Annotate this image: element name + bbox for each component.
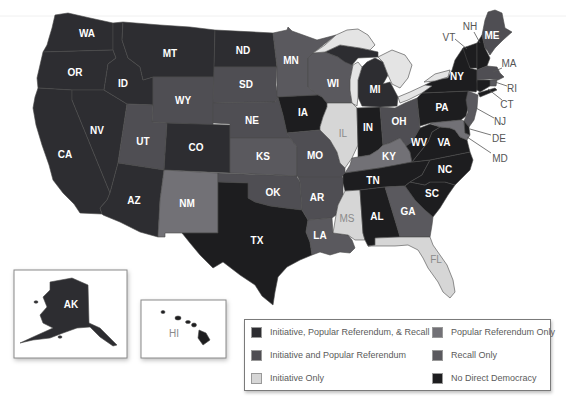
svg-text:UT: UT xyxy=(136,136,149,147)
svg-text:TN: TN xyxy=(366,175,379,186)
svg-text:AR: AR xyxy=(310,192,325,203)
svg-text:TX: TX xyxy=(251,235,264,246)
svg-text:NJ: NJ xyxy=(494,116,506,127)
legend-swatch xyxy=(251,373,262,384)
svg-text:NM: NM xyxy=(179,198,195,209)
legend-label: No Direct Democracy xyxy=(451,373,537,383)
svg-text:OR: OR xyxy=(68,67,84,78)
state-ri xyxy=(490,80,497,86)
legend-swatch xyxy=(432,350,443,361)
svg-text:SD: SD xyxy=(239,79,253,90)
state-me: ME xyxy=(482,10,512,55)
svg-text:MA: MA xyxy=(502,58,517,69)
svg-text:MN: MN xyxy=(283,55,299,66)
svg-text:ME: ME xyxy=(485,30,500,41)
state-wa: WA xyxy=(43,13,113,52)
svg-text:CO: CO xyxy=(189,142,204,153)
svg-text:KS: KS xyxy=(256,151,270,162)
svg-text:IL: IL xyxy=(339,128,348,139)
svg-text:MI: MI xyxy=(369,84,380,95)
svg-text:NH: NH xyxy=(463,21,477,32)
svg-text:LA: LA xyxy=(313,230,326,241)
svg-text:NC: NC xyxy=(438,164,452,175)
svg-text:GA: GA xyxy=(401,206,416,217)
svg-text:NE: NE xyxy=(245,115,259,126)
callout-ri: RI xyxy=(495,82,517,94)
callout-de: DE xyxy=(470,129,506,144)
legend-label: Initiative Only xyxy=(270,373,324,383)
state-co: CO xyxy=(164,123,230,173)
state-fl: FL xyxy=(368,237,455,298)
svg-text:WA: WA xyxy=(79,28,95,39)
legend-label: Initiative, Popular Referendum, & Recall xyxy=(270,327,430,337)
state-ks: KS xyxy=(230,138,297,176)
svg-text:AL: AL xyxy=(370,211,383,222)
svg-text:MS: MS xyxy=(340,213,355,224)
svg-text:VA: VA xyxy=(437,137,450,148)
svg-text:RI: RI xyxy=(507,83,517,94)
svg-text:CA: CA xyxy=(58,149,72,160)
svg-text:IA: IA xyxy=(298,107,308,118)
svg-text:SC: SC xyxy=(425,188,439,199)
svg-text:MT: MT xyxy=(163,48,177,59)
svg-text:DE: DE xyxy=(492,133,506,144)
legend-label: Initiative and Popular Referendum xyxy=(270,350,406,360)
svg-text:AZ: AZ xyxy=(127,195,140,206)
legend-label: Recall Only xyxy=(451,350,497,360)
state-nd: ND xyxy=(214,30,277,67)
svg-text:CT: CT xyxy=(500,99,513,110)
svg-text:MO: MO xyxy=(307,150,323,161)
callout-vt: VT xyxy=(443,32,467,49)
svg-text:OK: OK xyxy=(266,187,282,198)
callout-nh: NH xyxy=(463,21,480,43)
legend-swatch xyxy=(251,327,262,338)
legend-item-initiative-only: Initiative Only xyxy=(251,372,324,384)
legend-item-recall-only: Recall Only xyxy=(432,349,497,361)
state-nm: NM xyxy=(158,170,218,237)
legend-item-no-direct-democracy: No Direct Democracy xyxy=(432,372,537,384)
legend-item-popular-referendum-only: Popular Referendum Only xyxy=(432,326,555,338)
svg-text:NV: NV xyxy=(90,125,104,136)
state-sd: SD xyxy=(213,67,278,103)
legend-swatch xyxy=(251,350,262,361)
svg-text:NY: NY xyxy=(450,71,464,82)
svg-text:PA: PA xyxy=(435,102,448,113)
inset-hawaii xyxy=(141,300,226,358)
legend-item-initiative-referendum-recall: Initiative, Popular Referendum, & Recall xyxy=(251,326,430,338)
state-wy: WY xyxy=(152,77,214,125)
svg-text:KY: KY xyxy=(382,151,396,162)
legend-label: Popular Referendum Only xyxy=(451,327,555,337)
svg-text:FL: FL xyxy=(430,254,442,265)
legend-swatch xyxy=(432,373,443,384)
svg-text:ND: ND xyxy=(236,45,250,56)
svg-text:MD: MD xyxy=(492,153,508,164)
svg-text:IN: IN xyxy=(363,122,373,133)
svg-text:WY: WY xyxy=(175,95,191,106)
legend-swatch xyxy=(432,327,443,338)
svg-text:WI: WI xyxy=(327,78,339,89)
svg-text:VT: VT xyxy=(443,32,456,43)
svg-text:ID: ID xyxy=(118,78,128,89)
state-ma xyxy=(477,66,504,80)
state-or: OR xyxy=(37,50,116,90)
legend: Initiative, Popular Referendum, & Recall… xyxy=(244,319,551,391)
legend-item-initiative-and-referendum: Initiative and Popular Referendum xyxy=(251,349,406,361)
callout-nj: NJ xyxy=(476,108,506,127)
svg-text:OH: OH xyxy=(392,116,407,127)
svg-text:HI: HI xyxy=(169,328,179,339)
svg-text:WV: WV xyxy=(411,137,427,148)
svg-text:AK: AK xyxy=(64,299,79,310)
